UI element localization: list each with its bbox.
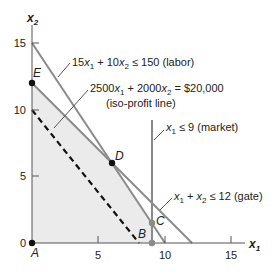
point-b-marker [149,240,155,246]
iso-profit-label-line1: 2500x1 + 2000x2 = $20,000 [90,82,224,97]
y-axis-title: x2 [26,11,39,27]
x-axis-title: x1 [248,237,261,253]
x-tick-label-15: 15 [225,249,237,261]
gate-label: x1 + x2 ≤ 12 (gate) [173,190,263,205]
market-leader-line [154,130,164,140]
y-tick-label-15: 15 [14,37,26,49]
point-b-label: B [138,227,146,241]
y-tick-label-0: 0 [20,237,26,249]
labor-leader-line [58,63,70,77]
x-tick-label-5: 5 [95,249,101,261]
x-tick-label-10: 10 [159,249,171,261]
lp-feasible-region-chart: 5 10 15 0 5 10 15 x2 x1 A E D C B 15x1 +… [0,0,279,274]
point-c-label: C [156,214,165,228]
point-e-label: E [33,66,42,80]
point-c-marker [149,220,155,226]
point-d-label: D [115,149,124,163]
y-tick-label-10: 10 [14,104,26,116]
point-a-label: A [30,246,39,260]
y-tick-label-5: 5 [20,170,26,182]
iso-profit-label-line2: (iso-profit line) [106,97,176,109]
market-label: x1 ≤ 9 (market) [165,121,238,136]
gate-leader-line [160,198,172,210]
labor-label: 15x1 + 10x2 ≤ 150 (labor) [72,56,194,71]
point-e-marker [29,80,35,86]
